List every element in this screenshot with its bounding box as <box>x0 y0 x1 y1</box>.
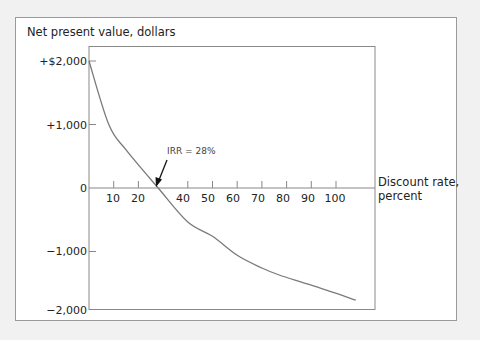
x-tick-label: 50 <box>201 192 215 205</box>
y-tick-label: +$2,000 <box>39 55 87 68</box>
x-tick-label: 80 <box>276 192 290 205</box>
npv-chart <box>0 0 480 340</box>
y-tick-label: −2,000 <box>46 304 87 317</box>
plot-box <box>89 47 375 310</box>
y-tick-label: −1,000 <box>46 245 87 258</box>
x-axis-title-line1: Discount rate, <box>378 175 459 189</box>
x-tick-label: 90 <box>301 192 315 205</box>
x-axis-title-line2: percent <box>378 189 459 203</box>
x-tick-label: 100 <box>325 192 346 205</box>
y-tick-label: 0 <box>80 182 87 195</box>
x-tick-label: 60 <box>226 192 240 205</box>
y-axis-title: Net present value, dollars <box>27 25 175 39</box>
x-tick-label: 70 <box>251 192 265 205</box>
x-tick-label: 40 <box>176 192 190 205</box>
irr-annotation: IRR = 28% <box>167 146 215 156</box>
irr-arrow-head-icon <box>156 177 163 187</box>
irr-arrow-shaft <box>159 160 167 180</box>
y-tick-label: +1,000 <box>46 119 87 132</box>
x-axis-title: Discount rate, percent <box>378 175 459 203</box>
x-tick-label: 20 <box>131 192 145 205</box>
x-axis-ticks <box>114 181 336 188</box>
npv-curve <box>89 61 356 300</box>
y-axis-ticks <box>89 61 96 310</box>
x-tick-label: 10 <box>106 192 120 205</box>
